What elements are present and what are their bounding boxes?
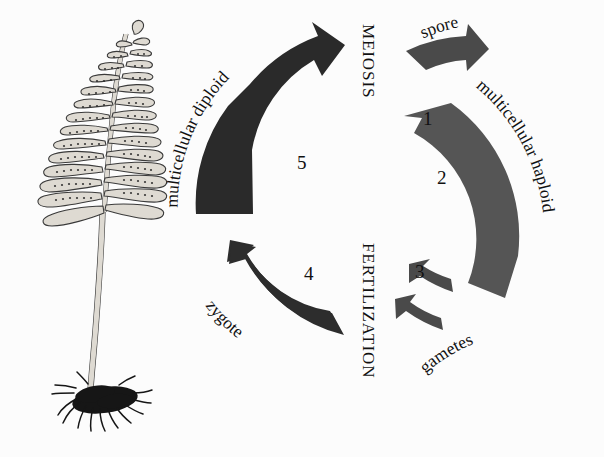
frond-pinnae — [38, 20, 167, 226]
label-meiosis: MEIOSIS — [358, 24, 378, 98]
label-fertilization: FERTILIZATION — [358, 243, 378, 378]
rhizome-with-roots — [52, 372, 152, 431]
arrow-5-multicellular-diploid — [196, 22, 345, 214]
step-number-5: 5 — [297, 152, 307, 174]
fern-sporophyte — [38, 20, 167, 431]
step-number-3: 3 — [415, 261, 425, 283]
step-number-4: 4 — [304, 263, 314, 285]
label-gametes: gametes — [415, 329, 476, 377]
figure-container: multicellular diploid multicellular hapl… — [0, 0, 604, 457]
step-number-2: 2 — [437, 167, 447, 189]
stipe — [88, 212, 105, 390]
step-number-1: 1 — [423, 108, 433, 130]
life-cycle-diagram: multicellular diploid multicellular hapl… — [0, 0, 604, 457]
arrow-4-zygote — [227, 240, 344, 335]
label-zygote: zygote — [202, 296, 248, 342]
